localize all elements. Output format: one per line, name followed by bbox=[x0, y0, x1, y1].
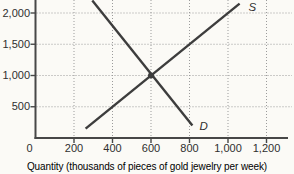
x-tick-label-600: 600 bbox=[142, 142, 160, 154]
equilibrium-dot bbox=[148, 73, 154, 79]
y-tick-label-500: 500 bbox=[12, 100, 30, 112]
demand-curve-label: D bbox=[199, 120, 207, 132]
x-axis-title: Quantity (thousands of pieces of gold je… bbox=[0, 161, 294, 172]
x-tick-label-1000: 1,000 bbox=[214, 142, 242, 154]
y-tick-label-1500: 1,500 bbox=[2, 38, 30, 50]
x-tick-label-400: 400 bbox=[103, 142, 121, 154]
x-tick-label-0: 0 bbox=[26, 142, 32, 154]
x-tick-label-200: 200 bbox=[65, 142, 83, 154]
x-tick-label-1200: 1,200 bbox=[253, 142, 281, 154]
y-tick-label-1000: 1,000 bbox=[2, 69, 30, 81]
supply-curve-label: S bbox=[249, 1, 257, 13]
chart-canvas: 5001,0001,5002,00002004006008001,0001,20… bbox=[0, 0, 294, 174]
supply-demand-chart: 5001,0001,5002,00002004006008001,0001,20… bbox=[0, 0, 294, 174]
x-tick-label-800: 800 bbox=[180, 142, 198, 154]
y-tick-label-2000: 2,000 bbox=[2, 7, 30, 19]
